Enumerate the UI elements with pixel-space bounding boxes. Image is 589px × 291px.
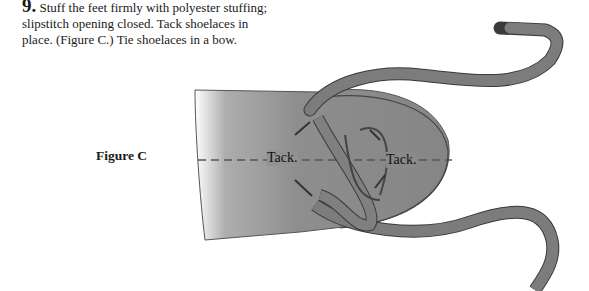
tack-annotation-left: Tack. (267, 150, 298, 166)
tack-annotation-right: Tack. (386, 152, 417, 168)
shoe-illustration (0, 0, 589, 291)
figure-label: Figure C (96, 148, 147, 164)
